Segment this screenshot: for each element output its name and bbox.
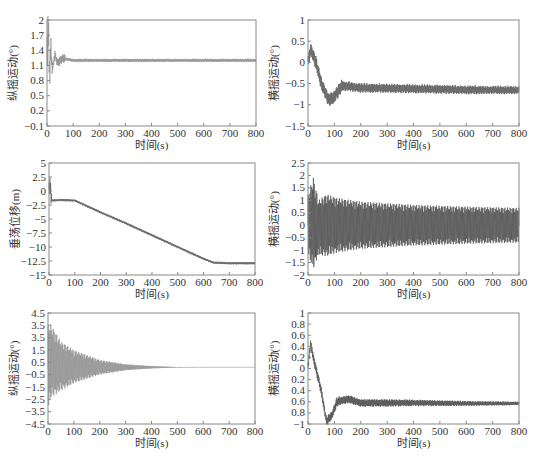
- y-tick-label: −1: [293, 98, 305, 110]
- y-tick-label: 2.5: [32, 171, 46, 183]
- x-tick-label: 400: [143, 127, 160, 139]
- y-tick-label: 1.5: [31, 344, 45, 356]
- y-tick-label: 3.5: [31, 331, 45, 343]
- y-tick-label: −2.5: [25, 393, 45, 405]
- x-tick-label: 200: [92, 276, 109, 288]
- x-tick-label: 100: [326, 276, 343, 288]
- x-tick-label: 0: [45, 425, 51, 437]
- x-tick-label: 200: [92, 425, 109, 437]
- x-tick-label: 500: [432, 425, 449, 437]
- y-axis-title: 纵摇运动(°): [6, 45, 20, 101]
- x-tick-label: 500: [169, 425, 186, 437]
- y-tick-label: −1.5: [25, 381, 45, 393]
- y-tick-label: −2: [293, 269, 305, 281]
- data-line: [308, 341, 519, 425]
- y-tick-label: −0.5: [285, 231, 305, 243]
- x-tick-label: 200: [91, 127, 108, 139]
- y-axis-title: 垂荡位移(m): [8, 189, 22, 249]
- x-axis-title: 时间(s): [397, 288, 431, 301]
- x-tick-label: 700: [484, 425, 501, 437]
- y-tick-label: −4.5: [25, 418, 45, 430]
- x-tick-label: 800: [511, 425, 528, 437]
- x-tick-label: 300: [118, 276, 135, 288]
- x-tick-label: 700: [222, 127, 239, 139]
- y-tick-label: −2.5: [26, 199, 46, 211]
- y-axis-title: 横摇运动(°): [267, 45, 281, 101]
- y-axis-title: 横摇运动(°): [267, 191, 281, 247]
- y-tick-label: 0.5: [291, 206, 305, 218]
- y-tick-label: 0: [300, 219, 306, 231]
- y-tick-label: 5: [41, 157, 47, 169]
- y-tick-label: 0: [41, 185, 47, 197]
- x-tick-label: 400: [144, 276, 161, 288]
- x-tick-label: 200: [353, 276, 370, 288]
- y-tick-label: 3.5: [31, 319, 45, 331]
- x-tick-label: 600: [196, 127, 213, 139]
- chart-top-right: 010020030040050060070080010.50−0.5−1−1.5…: [267, 14, 528, 153]
- x-tick-label: 100: [66, 425, 83, 437]
- y-tick-label: 0: [300, 56, 306, 68]
- y-tick-label: 2: [39, 14, 45, 26]
- x-tick-label: 0: [305, 127, 311, 139]
- y-tick-label: 2.5: [291, 157, 305, 169]
- plot-frame: [47, 20, 256, 126]
- y-tick-label: −7.5: [26, 227, 46, 239]
- y-tick-label: 2: [300, 169, 306, 181]
- x-axis-title: 时间(s): [135, 139, 169, 152]
- y-tick-label: 1.4: [30, 44, 44, 56]
- x-tick-label: 500: [170, 276, 187, 288]
- data-line: [48, 324, 255, 405]
- y-tick-label: 1: [300, 14, 306, 26]
- y-tick-label: −1: [293, 418, 305, 430]
- x-tick-label: 800: [247, 425, 264, 437]
- x-tick-label: 0: [305, 425, 311, 437]
- x-tick-label: 100: [67, 276, 84, 288]
- x-tick-label: 100: [326, 127, 343, 139]
- y-axis-title: 横摇运动(°): [267, 340, 281, 396]
- data-line: [47, 16, 256, 84]
- data-line: [308, 45, 519, 106]
- x-tick-label: 100: [65, 127, 82, 139]
- data-line: [49, 178, 255, 264]
- x-tick-label: 300: [379, 127, 396, 139]
- x-tick-label: 300: [379, 276, 396, 288]
- x-tick-label: 800: [247, 276, 264, 288]
- x-tick-label: 500: [432, 127, 449, 139]
- x-tick-label: 600: [458, 127, 475, 139]
- x-tick-label: 800: [511, 127, 528, 139]
- x-tick-label: 200: [353, 425, 370, 437]
- x-axis-title: 时间(s): [135, 288, 169, 301]
- y-tick-label: 1: [300, 194, 306, 206]
- chart-bottom-right: 010020030040050060070080010.80.60.40.200…: [267, 307, 528, 451]
- plot-frame: [308, 20, 519, 126]
- x-tick-label: 500: [169, 127, 186, 139]
- chart-middle-right: 01002003004005006007008002.521.510.50−0.…: [267, 157, 528, 302]
- x-tick-label: 0: [44, 127, 50, 139]
- y-axis-title: 纵摇运动(°): [7, 340, 21, 396]
- x-tick-label: 600: [458, 276, 475, 288]
- x-tick-label: 400: [405, 276, 422, 288]
- x-axis-title: 时间(s): [397, 139, 431, 152]
- y-tick-label: −3.5: [25, 405, 45, 417]
- x-tick-label: 200: [353, 127, 370, 139]
- y-tick-label: −12.5: [21, 255, 47, 267]
- x-tick-label: 700: [484, 127, 501, 139]
- plot-frame: [49, 163, 255, 275]
- chart-top-left: 010020030040050060070080021.71.41.10.80.…: [6, 14, 265, 153]
- y-tick-label: −10: [29, 241, 47, 253]
- y-tick-label: 0.5: [30, 89, 44, 101]
- y-tick-label: −0.1: [24, 120, 44, 132]
- y-tick-label: −1.5: [285, 256, 305, 268]
- y-tick-label: −1: [293, 244, 305, 256]
- chart-bottom-left: 01002003004005006007008004.53.53.51.50.5…: [7, 307, 264, 451]
- y-tick-label: 0.2: [30, 104, 44, 116]
- x-tick-label: 800: [511, 276, 528, 288]
- y-tick-label: 1.5: [291, 181, 305, 193]
- y-tick-label: −5: [34, 213, 46, 225]
- x-tick-label: 600: [195, 276, 212, 288]
- x-tick-label: 300: [379, 425, 396, 437]
- x-tick-label: 700: [221, 276, 238, 288]
- x-tick-label: 500: [432, 276, 449, 288]
- data-line: [308, 178, 519, 267]
- x-tick-label: 300: [117, 127, 134, 139]
